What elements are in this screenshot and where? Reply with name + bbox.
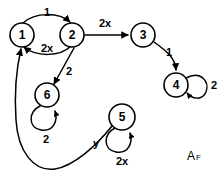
edge-1-to-2-label: 1 bbox=[44, 6, 50, 18]
node-5-label: 5 bbox=[119, 110, 126, 124]
self-loop-node-6-path bbox=[31, 106, 56, 130]
edge-2-to-6-label: 2 bbox=[66, 65, 72, 77]
self-loop-node-5: 2x bbox=[106, 128, 131, 167]
figure-canvas: 1 2x 2x 1 2 y 2 bbox=[0, 0, 224, 176]
node-2-label: 2 bbox=[69, 28, 76, 42]
node-6-label: 6 bbox=[44, 88, 51, 102]
figure-caption-subscript: F bbox=[196, 153, 201, 162]
self-loop-node-4: 2 bbox=[186, 75, 217, 98]
edge-2-to-3: 2x bbox=[85, 17, 128, 35]
node-5[interactable]: 5 bbox=[109, 104, 135, 130]
self-loop-node-6-label: 2 bbox=[43, 133, 49, 145]
self-loop-node-5-label: 2x bbox=[116, 155, 129, 167]
figure-caption: A F bbox=[187, 149, 201, 163]
self-loop-node-6: 2 bbox=[31, 106, 56, 145]
edge-2-to-1-label: 2x bbox=[41, 42, 54, 54]
edge-2-to-3-label: 2x bbox=[99, 17, 112, 29]
self-loop-node-4-label: 2 bbox=[211, 79, 217, 91]
node-2[interactable]: 2 bbox=[60, 23, 84, 47]
node-1[interactable]: 1 bbox=[10, 23, 34, 47]
node-1-label: 1 bbox=[19, 28, 26, 42]
node-3[interactable]: 3 bbox=[131, 23, 155, 47]
edge-3-to-4-label: 1 bbox=[166, 46, 172, 58]
edge-5-to-1-label: y bbox=[93, 137, 100, 149]
figure-caption-main: A bbox=[187, 149, 195, 163]
edge-3-to-4: 1 bbox=[154, 42, 176, 70]
node-4[interactable]: 4 bbox=[164, 73, 188, 97]
self-loop-node-5-path bbox=[106, 128, 131, 152]
self-loop-node-4-path bbox=[186, 75, 207, 98]
state-transition-graph: 1 2x 2x 1 2 y 2 bbox=[0, 0, 224, 176]
edge-1-to-2: 1 bbox=[23, 6, 70, 23]
node-6[interactable]: 6 bbox=[35, 83, 59, 107]
node-4-label: 4 bbox=[173, 78, 180, 92]
node-3-label: 3 bbox=[140, 28, 147, 42]
